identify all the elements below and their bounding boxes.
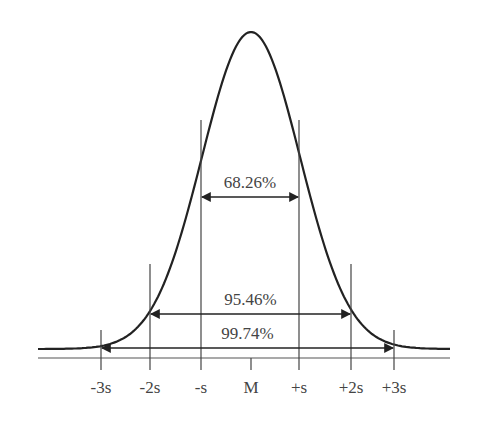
- interval-label-one-sigma: 68.26%: [224, 173, 276, 192]
- tick-label-plus-3s: +3s: [382, 378, 407, 397]
- tick-label-plus-2s: +2s: [339, 378, 364, 397]
- tick-label-minus-s: -s: [195, 378, 207, 397]
- tick-label-minus-2s: -2s: [140, 378, 161, 397]
- interval-label-two-sigma: 95.46%: [224, 290, 276, 309]
- tick-label-plus-s: +s: [291, 378, 307, 397]
- normal-distribution-diagram: -3s-2s-sM+s+2s+3s 68.26%95.46%99.74%: [0, 0, 481, 427]
- tick-label-mean: M: [243, 378, 258, 397]
- tick-label-minus-3s: -3s: [91, 378, 112, 397]
- interval-label-three-sigma: 99.74%: [221, 324, 273, 343]
